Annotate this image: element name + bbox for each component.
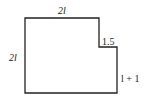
left-side-label: 2l xyxy=(9,53,17,63)
top-side-label: 2l xyxy=(58,6,66,16)
right-side-label: l + 1 xyxy=(121,74,139,84)
notch-label: 1.5 xyxy=(102,37,115,47)
l-shape-figure xyxy=(0,0,150,100)
